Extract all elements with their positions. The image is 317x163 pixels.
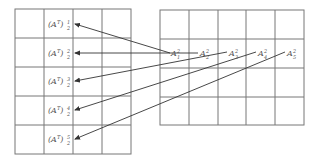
svg-text:(AT): (AT) — [48, 19, 63, 29]
svg-text:3: 3 — [235, 54, 238, 60]
svg-text:2: 2 — [205, 54, 209, 60]
left-label-1: (AT) 1 2 — [48, 19, 70, 31]
right-label-4: A 2 4 — [257, 48, 267, 60]
left-label-4: (AT) 4 2 — [48, 105, 70, 117]
svg-text:A: A — [199, 49, 206, 58]
svg-text:A: A — [286, 49, 293, 58]
right-label-5: A 2 5 — [286, 48, 296, 60]
svg-text:5: 5 — [293, 54, 296, 60]
svg-text:A: A — [257, 49, 264, 58]
svg-text:(AT): (AT) — [48, 48, 63, 58]
left-label-3: (AT) 3 2 — [48, 76, 70, 88]
svg-text:2: 2 — [66, 111, 70, 117]
right-label-1: A 2 1 — [170, 48, 180, 60]
right-label-3: A 2 3 — [228, 48, 238, 60]
svg-text:2: 2 — [66, 140, 70, 146]
left-label-2: (AT) 2 2 — [48, 48, 70, 60]
right-matrix-grid — [160, 10, 304, 125]
left-matrix-grid — [15, 9, 131, 154]
svg-text:A: A — [228, 49, 235, 58]
svg-text:2: 2 — [66, 54, 70, 60]
transpose-diagram: (AT) 1 2 (AT) 2 2 (AT) 3 2 (AT) 4 2 (AT)… — [0, 0, 317, 163]
svg-text:(AT): (AT) — [48, 134, 63, 144]
right-label-2: A 2 2 — [199, 48, 209, 60]
svg-text:2: 2 — [66, 25, 70, 31]
mapping-arrows — [75, 24, 285, 139]
svg-text:(AT): (AT) — [48, 76, 63, 86]
svg-text:1: 1 — [177, 54, 180, 60]
svg-text:4: 4 — [263, 54, 267, 60]
svg-text:2: 2 — [66, 82, 70, 88]
left-label-5: (AT) 5 2 — [48, 134, 70, 146]
svg-text:A: A — [170, 49, 177, 58]
svg-text:(AT): (AT) — [48, 105, 63, 115]
